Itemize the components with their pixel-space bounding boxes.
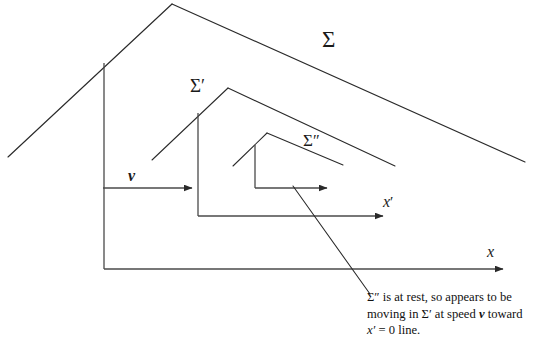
label-sigma-text: Σ — [322, 27, 335, 52]
label-velocity-text: v — [128, 167, 135, 184]
label-x-axis-text: x — [487, 243, 494, 260]
frame-sigma-dprime-outline — [233, 133, 343, 166]
caption-sigma-double-prime: Σ″ — [367, 290, 380, 304]
frame-sigma-prime-outline — [152, 88, 395, 166]
caption-line2-b: at speed — [432, 307, 479, 321]
caption-line3-b: = 0 line. — [375, 323, 420, 337]
sigma-roof-right-line — [172, 4, 525, 162]
leader-line-path — [293, 186, 370, 294]
frame-sigma-axes — [104, 63, 503, 269]
sigma-roof-left-line — [8, 4, 172, 157]
label-sigma-double-prime-mark: ″ — [313, 132, 320, 149]
caption-line3-a: toward — [488, 307, 523, 321]
sigma-dprime-roof-left-line — [233, 133, 267, 166]
sigma-prime-roof-left-line — [152, 88, 228, 160]
sigma-prime-roof-right-line — [228, 88, 395, 166]
label-x-axis: x — [487, 244, 494, 260]
label-x-prime-axis: x′ — [383, 194, 394, 210]
label-velocity: v — [128, 168, 135, 184]
label-sigma-double-prime-base: Σ — [303, 131, 313, 150]
physics-diagram-figure: Σ Σ′ Σ″ v x′ x Σ″ is at rest, so appears… — [0, 0, 537, 352]
label-sigma-double-prime: Σ″ — [303, 132, 320, 149]
label-sigma-prime-mark: ′ — [201, 76, 205, 96]
caption-text-block: Σ″ is at rest, so appears to be moving i… — [367, 289, 533, 339]
frame-sigma-prime-axes — [198, 113, 383, 216]
label-sigma-prime-base: Σ — [190, 75, 201, 96]
label-x-prime-mark: ′ — [390, 193, 394, 210]
caption-leader-line — [293, 186, 370, 294]
label-sigma-prime: Σ′ — [190, 76, 206, 95]
frame-sigma-outline — [8, 4, 525, 162]
frame-sigma-dprime-axes — [255, 145, 327, 188]
label-sigma: Σ — [322, 28, 335, 51]
caption-line1-rest: is at rest, so appears to — [380, 290, 497, 304]
caption-sigma-prime: Σ′ — [422, 307, 432, 321]
caption-velocity-symbol: v — [479, 307, 485, 321]
